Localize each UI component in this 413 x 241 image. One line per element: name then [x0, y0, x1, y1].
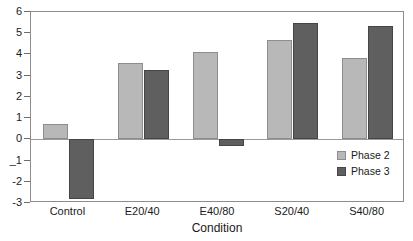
bar: [144, 70, 169, 139]
y-axis-tick-label: 0: [0, 133, 22, 144]
x-axis-tick-label: Control: [50, 205, 85, 217]
x-axis-tick-label: E40/80: [200, 205, 235, 217]
legend-swatch-icon: [337, 151, 346, 160]
bar: [293, 23, 318, 140]
bar: [69, 139, 94, 198]
bar: [342, 58, 367, 140]
bar: [267, 40, 292, 140]
y-axis-tick-label: -2: [0, 175, 22, 186]
x-axis-tick-labels: ControlE20/40E40/80S20/40S40/80: [30, 205, 404, 221]
y-axis-tick-label: 6: [0, 6, 22, 17]
bar: [193, 52, 218, 139]
bar: [368, 26, 393, 140]
y-axis-tick-label: 5: [0, 27, 22, 38]
x-axis-tick-label: S40/80: [349, 205, 384, 217]
legend-swatch-icon: [337, 167, 346, 176]
y-axis-tick-label: 1: [0, 112, 22, 123]
y-axis-tick-label: 2: [0, 90, 22, 101]
bar: [43, 124, 68, 139]
x-axis-tick-label: S20/40: [274, 205, 309, 217]
legend-label: Phase 3: [351, 166, 390, 177]
legend: Phase 2Phase 3: [337, 148, 401, 180]
y-axis-tick-label: _1: [0, 154, 22, 165]
y-axis-tick-label: 4: [0, 48, 22, 59]
x-axis-title: Condition: [30, 222, 404, 234]
y-axis-tick-mark: [24, 202, 30, 203]
legend-item: Phase 2: [337, 148, 401, 163]
bar: [219, 139, 244, 145]
bar: [118, 63, 143, 139]
bar-chart: 6543210_1-2-3 ControlE20/40E40/80S20/40S…: [0, 0, 413, 241]
y-axis-tick-label: -3: [0, 197, 22, 208]
y-axis-tick-labels: 6543210_1-2-3: [0, 0, 22, 241]
x-axis-tick-label: E20/40: [125, 205, 160, 217]
legend-label: Phase 2: [351, 150, 390, 161]
y-axis-tick-label: 3: [0, 69, 22, 80]
legend-item: Phase 3: [337, 164, 401, 179]
